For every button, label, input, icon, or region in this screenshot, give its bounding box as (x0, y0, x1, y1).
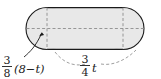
radius-label-denominator: 8 (4, 67, 11, 79)
radius-label-expression: (8−t) (14, 62, 45, 76)
radius-label-numerator: 3 (4, 54, 11, 67)
length-label-expression: t (92, 61, 97, 75)
length-label-group: 3 4 t (80, 53, 97, 79)
length-brace-right (101, 50, 136, 64)
length-label-numerator: 3 (82, 53, 89, 66)
figure-canvas: 3 8 (8−t) 3 4 t (0, 0, 161, 79)
radius-label-group: 3 8 (8−t) (2, 54, 45, 79)
math-figure: 3 8 (8−t) 3 4 t (0, 0, 161, 79)
length-label-denominator: 4 (82, 66, 89, 79)
